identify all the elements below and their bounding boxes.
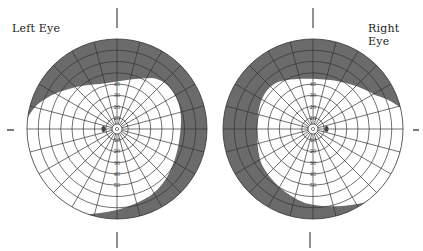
svg-text:10: 10 bbox=[114, 115, 120, 121]
svg-text:40: 40 bbox=[310, 171, 316, 177]
svg-text:20: 20 bbox=[310, 148, 316, 154]
svg-text:20: 20 bbox=[114, 104, 120, 110]
svg-text:30: 30 bbox=[114, 160, 120, 166]
left-fixation-point bbox=[112, 124, 122, 134]
left-blind-spot bbox=[102, 126, 106, 132]
svg-text:50: 50 bbox=[114, 182, 120, 188]
right-fixation-point bbox=[308, 124, 318, 134]
right-blind-spot bbox=[325, 126, 329, 132]
svg-text:30: 30 bbox=[114, 92, 120, 98]
left-eye-chart: 10 20 30 40 10 20 30 40 50 bbox=[7, 8, 215, 248]
svg-text:50: 50 bbox=[310, 182, 316, 188]
visual-field-diagram: 10 20 30 40 10 20 30 40 50 bbox=[0, 0, 423, 251]
right-eye-chart: 10 20 30 40 10 20 30 40 50 bbox=[215, 8, 419, 248]
svg-text:20: 20 bbox=[310, 104, 316, 110]
svg-text:30: 30 bbox=[310, 92, 316, 98]
svg-text:30: 30 bbox=[310, 160, 316, 166]
svg-text:40: 40 bbox=[310, 81, 316, 87]
svg-text:40: 40 bbox=[114, 81, 120, 87]
svg-text:10: 10 bbox=[310, 137, 316, 143]
svg-text:40: 40 bbox=[114, 171, 120, 177]
svg-text:10: 10 bbox=[114, 137, 120, 143]
svg-text:20: 20 bbox=[114, 148, 120, 154]
svg-text:10: 10 bbox=[310, 115, 316, 121]
